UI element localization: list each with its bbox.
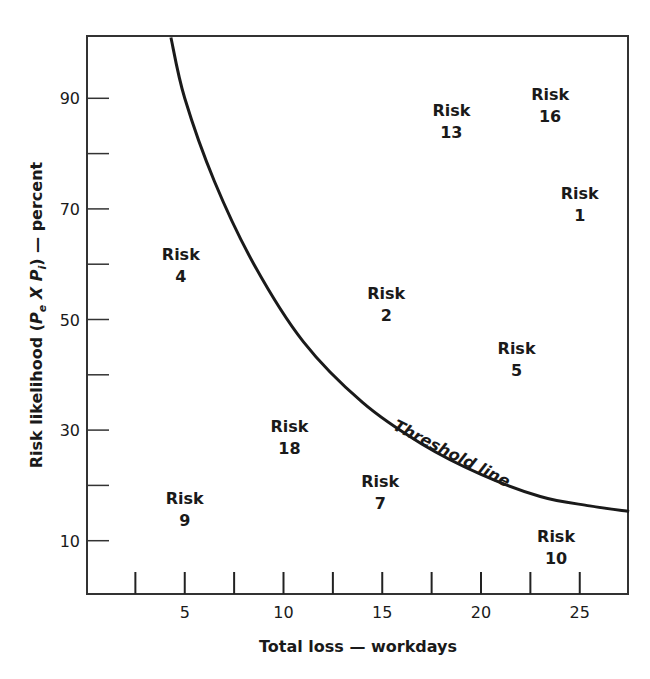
y-tick-label: 70	[60, 200, 80, 219]
risk-number: 9	[179, 511, 190, 530]
risk-label: Risk	[432, 101, 470, 120]
risk-label: Risk	[561, 184, 599, 203]
y-tick-label: 10	[60, 532, 80, 551]
risk-point-5: Risk5	[498, 339, 536, 380]
risk-label: Risk	[537, 527, 575, 546]
risk-point-1: Risk1	[561, 184, 599, 225]
x-tick-label: 10	[273, 603, 293, 622]
risk-number: 18	[278, 439, 300, 458]
risk-point-9: Risk9	[166, 489, 204, 530]
x-axis-title: Total loss — workdays	[259, 637, 457, 656]
y-axis-title-mid: X	[27, 281, 46, 304]
risk-number: 1	[574, 206, 585, 225]
risk-point-13: Risk13	[432, 101, 470, 142]
y-axis-title-p1: P	[27, 312, 46, 324]
x-tick-label: 25	[570, 603, 590, 622]
risk-label: Risk	[361, 472, 399, 491]
risk-label: Risk	[498, 339, 536, 358]
risk-point-2: Risk2	[367, 284, 405, 325]
y-tick-label: 30	[60, 421, 80, 440]
risk-point-4: Risk4	[162, 245, 200, 286]
risk-point-16: Risk16	[531, 85, 569, 126]
risk-number: 5	[511, 361, 522, 380]
risk-label: Risk	[270, 417, 308, 436]
risk-label: Risk	[162, 245, 200, 264]
risk-number: 10	[545, 549, 567, 568]
y-axis-title-prefix: Risk likelihood (	[27, 324, 46, 468]
risk-point-18: Risk18	[270, 417, 308, 458]
x-tick-label: 20	[471, 603, 491, 622]
risk-point-7: Risk7	[361, 472, 399, 513]
risk-point-10: Risk10	[537, 527, 575, 568]
y-tick-label: 50	[60, 311, 80, 330]
risk-label: Risk	[367, 284, 405, 303]
y-axis-title-p2: P	[27, 269, 46, 281]
risk-threshold-chart: 5101520251030507090 Threshold line Risk1…	[0, 0, 650, 679]
threshold-line-label: Threshold line	[390, 416, 513, 491]
risk-number: 4	[175, 267, 186, 286]
y-axis-title-suffix: ) — percent	[27, 161, 46, 265]
risk-number: 16	[539, 107, 561, 126]
risk-label: Risk	[531, 85, 569, 104]
y-axis-title: Risk likelihood (Pe X Pi) — percent	[27, 161, 49, 468]
risk-number: 7	[375, 494, 386, 513]
risk-number: 13	[440, 123, 462, 142]
y-tick-label: 90	[60, 89, 80, 108]
x-tick-label: 15	[372, 603, 392, 622]
risk-number: 2	[381, 306, 392, 325]
risk-label: Risk	[166, 489, 204, 508]
x-tick-label: 5	[180, 603, 190, 622]
